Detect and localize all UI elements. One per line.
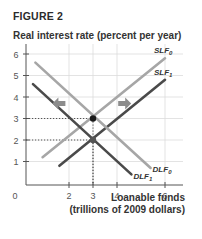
curve-label-slf0: SLF0 [154,46,173,56]
y-tick-label: 5 [13,71,18,81]
x-axis-title-main: Loanable funds [69,192,185,204]
curve-label-dlf1: DLF1 [133,172,153,182]
y-tick-label: 6 [13,50,18,60]
curve-label-dlf0: DLF0 [153,165,173,175]
x-axis-title: Loanable funds (trillions of 2009 dollar… [69,192,185,216]
origin-label: 0 [12,191,17,201]
curve-slf0 [43,58,165,157]
x-axis-title-sub: (trillions of 2009 dollars) [69,204,185,216]
y-tick-label: 3 [13,114,18,124]
y-tick-label: 2 [13,136,18,146]
y-tick-label: 4 [13,93,18,103]
y-tick-label: 1 [13,157,18,167]
equilibrium-point [90,137,96,143]
equilibrium-point [90,115,96,121]
curve-label-slf1: SLF1 [154,68,173,78]
